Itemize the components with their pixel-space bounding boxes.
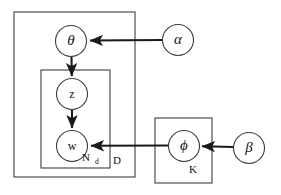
lda-plate-diagram: θ z w α ϕ β <box>0 0 281 195</box>
node-z-label: z <box>69 87 74 101</box>
edge-alpha-to-theta <box>90 40 163 41</box>
plate-label-D: D <box>113 154 121 166</box>
node-phi-label: ϕ <box>180 137 188 153</box>
node-z[interactable]: z <box>57 79 88 110</box>
node-beta[interactable]: β <box>234 133 265 164</box>
diagram-canvas: θ z w α ϕ β <box>0 0 281 195</box>
edges-layer <box>72 40 234 147</box>
node-alpha[interactable]: α <box>163 25 194 56</box>
node-theta-label: θ <box>67 32 75 48</box>
node-phi[interactable]: ϕ <box>169 131 200 162</box>
node-w-label: w <box>68 139 77 153</box>
plate-label-Nd-subscript: d <box>95 157 99 166</box>
node-theta[interactable]: θ <box>56 26 87 57</box>
plate-label-K: K <box>189 163 197 175</box>
node-alpha-label: α <box>174 31 183 47</box>
plate-label-Nd: N <box>82 151 90 163</box>
node-beta-label: β <box>244 139 253 155</box>
nodes-layer: θ z w α ϕ β <box>56 25 265 164</box>
edge-beta-to-phi <box>202 146 234 147</box>
